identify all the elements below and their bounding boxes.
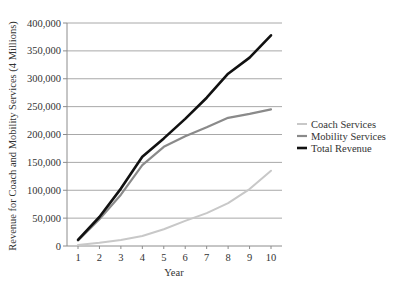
x-tick-label: 8: [225, 252, 230, 263]
legend-item: Mobility Services: [297, 131, 386, 142]
legend: Coach ServicesMobility ServicesTotal Rev…: [297, 119, 386, 154]
line-chart: 050,000100,000150,000200,000250,000300,0…: [0, 0, 393, 288]
legend-label: Total Revenue: [311, 143, 372, 154]
x-tick-label: 10: [266, 252, 277, 263]
x-tick-label: 9: [247, 252, 252, 263]
y-tick-label: 50,000: [32, 213, 61, 224]
x-tick-label: 7: [204, 252, 209, 263]
y-axis: 050,000100,000150,000200,000250,000300,0…: [27, 18, 67, 252]
y-tick-label: 300,000: [27, 73, 61, 84]
x-tick-label: 5: [161, 252, 166, 263]
y-tick-label: 350,000: [27, 45, 61, 56]
y-tick-label: 250,000: [27, 101, 61, 112]
x-axis: 12345678910: [67, 246, 282, 263]
y-tick-label: 100,000: [27, 185, 61, 196]
legend-label: Mobility Services: [311, 131, 386, 142]
legend-item: Total Revenue: [297, 143, 372, 154]
y-axis-title: Revenue for Coach and Mobility Services …: [7, 21, 19, 251]
legend-label: Coach Services: [311, 119, 376, 130]
y-tick-label: 0: [56, 241, 61, 252]
legend-item: Coach Services: [297, 119, 376, 130]
x-tick-label: 6: [183, 252, 188, 263]
x-tick-label: 1: [75, 252, 80, 263]
x-axis-title: Year: [164, 267, 184, 278]
x-tick-label: 2: [97, 252, 102, 263]
x-tick-label: 4: [140, 252, 146, 263]
x-tick-label: 3: [118, 252, 123, 263]
y-tick-label: 150,000: [27, 157, 61, 168]
y-tick-label: 200,000: [27, 129, 61, 140]
y-tick-label: 400,000: [27, 18, 61, 29]
series-lines: [78, 35, 271, 245]
